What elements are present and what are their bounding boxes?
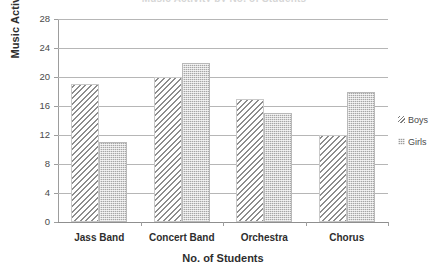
legend-item-girls[interactable]: Girls [398, 134, 448, 149]
gridline-24 [58, 48, 388, 49]
category-separator-2 [223, 222, 224, 226]
bar-boys-chorus [319, 135, 347, 222]
bar-boys-jass-band [71, 84, 99, 222]
bar-girls-concert-band [182, 63, 210, 223]
bar-chart: Music Activity by No. of Students Music … [0, 0, 448, 275]
bar-girls-jass-band [99, 142, 127, 222]
bar-boys-orchestra [236, 99, 264, 222]
y-tick-label-24: 24 [20, 42, 50, 53]
y-tick-label-20: 20 [20, 71, 50, 82]
y-tick-mark-24 [54, 48, 58, 49]
x-tick-label-concert-band: Concert Band [141, 232, 224, 243]
legend: BoysGirls [398, 112, 448, 156]
x-tick-label-chorus: Chorus [306, 232, 389, 243]
y-tick-label-16: 16 [20, 100, 50, 111]
bar-girls-chorus [347, 92, 375, 223]
y-tick-mark-8 [54, 164, 58, 165]
y-tick-mark-0 [54, 222, 58, 223]
y-tick-mark-16 [54, 106, 58, 107]
legend-label-boys: Boys [408, 115, 428, 125]
bar-boys-concert-band [154, 77, 182, 222]
y-tick-label-0: 0 [20, 216, 50, 227]
x-tick-label-jass-band: Jass Band [58, 232, 141, 243]
legend-label-girls: Girls [408, 137, 427, 147]
legend-swatch-boys-icon [398, 116, 405, 123]
plot-area: 0481216202428 [58, 19, 388, 222]
category-separator-1 [141, 222, 142, 226]
y-tick-mark-12 [54, 135, 58, 136]
x-axis-title: No. of Students [58, 252, 388, 264]
category-separator-end [388, 222, 389, 226]
y-tick-mark-28 [54, 19, 58, 20]
gridline-16 [58, 106, 388, 107]
bar-girls-orchestra [264, 113, 292, 222]
gridline-28 [58, 19, 388, 20]
y-tick-label-8: 8 [20, 158, 50, 169]
gridline-20 [58, 77, 388, 78]
y-tick-label-28: 28 [20, 13, 50, 24]
y-tick-mark-4 [54, 193, 58, 194]
x-tick-label-orchestra: Orchestra [223, 232, 306, 243]
legend-swatch-girls-icon [398, 138, 405, 145]
category-separator-3 [306, 222, 307, 226]
legend-item-boys[interactable]: Boys [398, 112, 448, 127]
chart-title: Music Activity by No. of Students [0, 0, 448, 2]
y-tick-label-4: 4 [20, 187, 50, 198]
y-tick-label-12: 12 [20, 129, 50, 140]
y-tick-mark-20 [54, 77, 58, 78]
